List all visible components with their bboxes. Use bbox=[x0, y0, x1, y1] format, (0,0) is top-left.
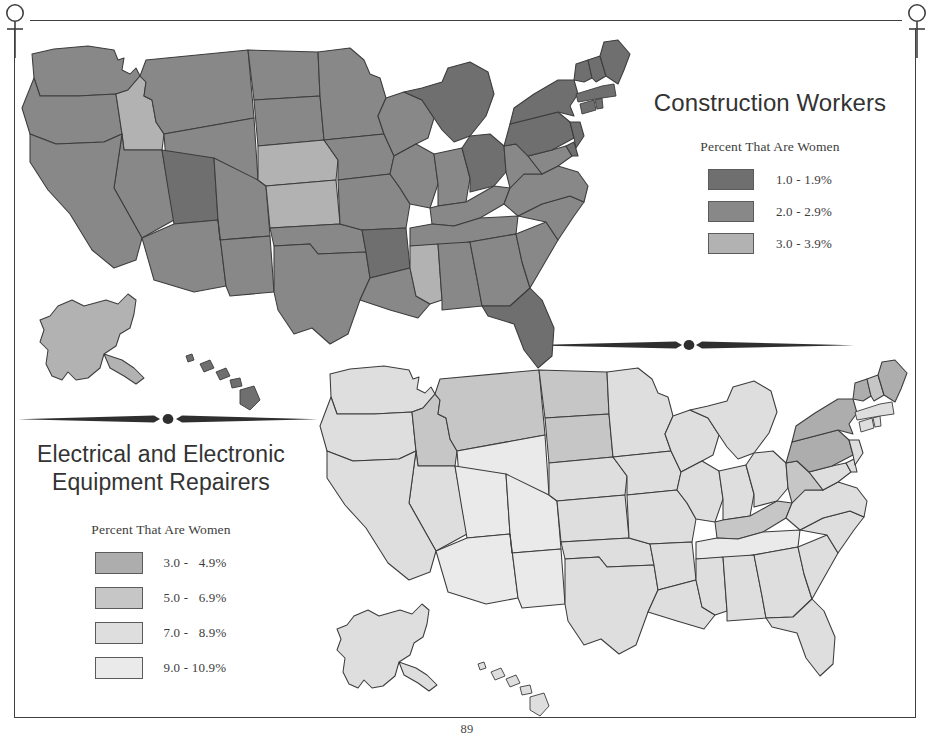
state-TX-2 bbox=[565, 557, 658, 654]
state-MA-2 bbox=[855, 402, 894, 420]
state-AK-2 bbox=[337, 604, 437, 691]
construction-legend: 1.0 - 1.9% 2.0 - 2.9% 3.0 - 3.9% bbox=[708, 169, 832, 265]
legend-label: 1.0 - 1.9% bbox=[776, 172, 832, 188]
state-WA bbox=[32, 46, 140, 96]
legend-item: 7.0 - 8.9% bbox=[95, 622, 226, 644]
state-HI-2 bbox=[478, 662, 549, 716]
legend-label: 5.0 - 6.9% bbox=[163, 590, 226, 606]
state-NE-2 bbox=[549, 457, 627, 501]
map-construction-workers bbox=[18, 38, 638, 398]
state-SD bbox=[254, 96, 324, 146]
state-MN-2 bbox=[607, 368, 673, 457]
construction-workers-panel: Construction Workers Percent That Are Wo… bbox=[620, 88, 920, 265]
state-CT-2 bbox=[859, 418, 874, 432]
construction-legend-caption: Percent That Are Women bbox=[620, 139, 920, 155]
legend-swatch bbox=[708, 169, 754, 190]
electrical-repairers-title: Electrical and Electronic Equipment Repa… bbox=[6, 440, 316, 496]
state-WA-2 bbox=[330, 366, 435, 414]
state-KS bbox=[266, 180, 340, 228]
legend-item: 9.0 - 10.9% bbox=[95, 657, 226, 679]
state-RI bbox=[595, 98, 603, 109]
frame-top-gap bbox=[14, 14, 916, 28]
frame-top-rule bbox=[30, 20, 902, 21]
state-MA bbox=[576, 84, 616, 102]
state-shapes-construction bbox=[22, 40, 630, 410]
construction-workers-title: Construction Workers bbox=[620, 88, 920, 117]
legend-swatch bbox=[708, 201, 754, 222]
repairers-legend: 3.0 - 4.9% 5.0 - 6.9% 7.0 - 8.9% 9.0 - 1… bbox=[95, 552, 226, 692]
legend-swatch bbox=[95, 587, 143, 609]
legend-label: 7.0 - 8.9% bbox=[163, 625, 226, 641]
legend-item: 3.0 - 3.9% bbox=[708, 233, 832, 254]
legend-item: 3.0 - 4.9% bbox=[95, 552, 226, 574]
venus-symbol-icon-top-right bbox=[904, 2, 930, 60]
page-number: 89 bbox=[0, 722, 934, 737]
legend-label: 3.0 - 3.9% bbox=[776, 236, 832, 252]
legend-label: 9.0 - 10.9% bbox=[163, 660, 226, 676]
state-shapes-repairers bbox=[320, 360, 907, 716]
state-CT bbox=[580, 100, 596, 114]
legend-swatch bbox=[95, 657, 143, 679]
state-ND bbox=[248, 50, 320, 100]
legend-swatch bbox=[95, 622, 143, 644]
legend-label: 3.0 - 4.9% bbox=[163, 555, 226, 571]
state-SD-2 bbox=[545, 414, 613, 463]
map-electrical-repairers bbox=[316, 358, 916, 706]
electrical-repairers-panel: Electrical and Electronic Equipment Repa… bbox=[6, 440, 316, 692]
repairers-legend-caption: Percent That Are Women bbox=[6, 522, 316, 538]
state-KS-2 bbox=[557, 495, 629, 542]
legend-item: 5.0 - 6.9% bbox=[95, 587, 226, 609]
divider-ornament-left bbox=[18, 408, 318, 430]
legend-item: 2.0 - 2.9% bbox=[708, 201, 832, 222]
state-MN bbox=[318, 48, 386, 140]
state-TX bbox=[274, 244, 370, 344]
state-NE bbox=[258, 140, 338, 186]
page: Construction Workers Percent That Are Wo… bbox=[0, 0, 934, 744]
state-ND-2 bbox=[539, 370, 609, 418]
state-HI bbox=[186, 354, 260, 410]
legend-swatch bbox=[708, 233, 754, 254]
state-RI-2 bbox=[873, 416, 881, 427]
state-AK bbox=[40, 294, 144, 384]
legend-item: 1.0 - 1.9% bbox=[708, 169, 832, 190]
legend-label: 2.0 - 2.9% bbox=[776, 204, 832, 220]
legend-swatch bbox=[95, 552, 143, 574]
